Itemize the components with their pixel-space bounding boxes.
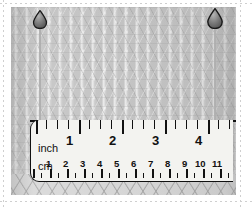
inch-number-label: 2: [109, 134, 116, 147]
inch-minor-tick: [175, 120, 176, 129]
pin-head-icon: [32, 10, 47, 33]
cm-number-label: 1: [46, 159, 51, 169]
cm-major-tick: [220, 169, 222, 178]
inch-major-tick: [79, 120, 81, 134]
inch-number-label: 4: [195, 134, 202, 147]
inch-minor-tick: [218, 120, 219, 129]
pin-shaft: [39, 27, 41, 135]
inch-number-label: 1: [66, 134, 73, 147]
cm-major-tick: [118, 169, 120, 178]
cm-number-label: 10: [195, 159, 206, 169]
guide-line-top: [0, 3, 252, 4]
cm-number-label: 9: [182, 159, 187, 169]
cm-major-tick: [84, 169, 86, 178]
ruler-inch-unit-label: inch: [38, 143, 58, 154]
inch-minor-tick: [57, 120, 58, 129]
guide-line-right: [240, 0, 241, 209]
inch-minor-tick: [132, 120, 133, 129]
figure-canvas: inch cm 12341234567891011: [0, 0, 252, 209]
cm-number-label: 8: [165, 159, 170, 169]
cm-minor-tick: [143, 173, 144, 178]
cm-minor-tick: [160, 173, 161, 178]
cm-major-tick: [203, 169, 205, 178]
cm-major-tick: [169, 169, 171, 178]
cm-number-label: 5: [114, 159, 119, 169]
cm-minor-tick: [228, 173, 229, 178]
inch-major-tick: [36, 120, 38, 134]
cm-number-label: 2: [63, 159, 68, 169]
inch-minor-tick: [111, 120, 112, 129]
cm-major-tick: [67, 169, 69, 178]
inch-minor-tick: [89, 120, 90, 129]
inch-minor-tick: [143, 120, 144, 129]
pin-head-icon: [206, 8, 223, 33]
inch-minor-tick: [100, 120, 101, 129]
cm-minor-tick: [92, 173, 93, 178]
guide-line-bottom: [0, 201, 252, 202]
inch-major-tick: [122, 120, 124, 134]
cm-minor-tick: [109, 173, 110, 178]
inch-major-tick: [208, 120, 210, 134]
inch-minor-tick: [154, 120, 155, 129]
cm-number-label: 11: [212, 159, 222, 169]
cm-minor-tick: [194, 173, 195, 178]
cm-major-tick: [33, 169, 35, 178]
cm-major-tick: [152, 169, 154, 178]
inch-minor-tick: [46, 120, 47, 129]
inch-number-label: 3: [152, 134, 159, 147]
cm-number-label: 4: [97, 159, 102, 169]
inch-major-tick: [165, 120, 167, 134]
cm-minor-tick: [75, 173, 76, 178]
guide-line-left: [3, 0, 4, 209]
cm-number-label: 3: [80, 159, 85, 169]
cm-major-tick: [50, 169, 52, 178]
inch-minor-tick: [186, 120, 187, 129]
cm-minor-tick: [41, 173, 42, 178]
cm-minor-tick: [177, 173, 178, 178]
left-marker-pin: [32, 10, 47, 137]
cm-minor-tick: [211, 173, 212, 178]
inch-minor-tick: [68, 120, 69, 129]
cm-major-tick: [186, 169, 188, 178]
cm-major-tick: [101, 169, 103, 178]
cm-minor-tick: [58, 173, 59, 178]
cm-major-tick: [135, 169, 137, 178]
cm-number-label: 6: [131, 159, 136, 169]
cm-minor-tick: [126, 173, 127, 178]
inch-minor-tick: [229, 120, 230, 129]
cm-number-label: 7: [148, 159, 153, 169]
inch-minor-tick: [197, 120, 198, 129]
